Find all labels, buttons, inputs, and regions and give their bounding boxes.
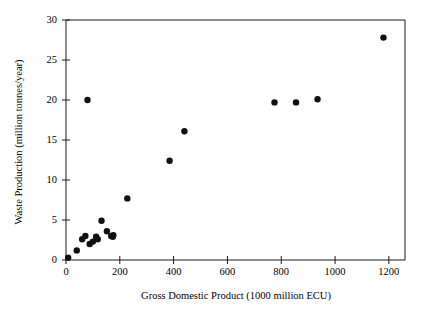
y-axis-title: Waste Production (million tonnes/year) <box>13 59 25 225</box>
plot-frame <box>66 20 405 260</box>
data-point <box>166 158 172 164</box>
data-point <box>82 233 88 239</box>
y-tick-label: 5 <box>52 214 57 225</box>
data-point <box>98 218 104 224</box>
data-point <box>95 236 101 242</box>
y-tick-label: 25 <box>47 54 58 65</box>
data-point-series <box>65 34 387 260</box>
data-point <box>380 34 386 40</box>
x-tick-label: 800 <box>273 266 289 277</box>
y-tick-label: 20 <box>47 94 58 105</box>
y-axis-ticklabels: 051015202530 <box>47 14 58 265</box>
data-point <box>271 99 277 105</box>
x-tick-label: 400 <box>166 266 182 277</box>
data-point <box>181 128 187 134</box>
data-point <box>104 228 110 234</box>
x-tick-label: 600 <box>220 266 236 277</box>
x-axis-title: Gross Domestic Product (1000 million ECU… <box>141 290 331 302</box>
x-tick-label: 1000 <box>325 266 346 277</box>
x-axis-ticklabels: 020040060080010001200 <box>63 266 399 277</box>
y-tick-label: 30 <box>47 14 58 25</box>
x-tick-label: 1200 <box>378 266 399 277</box>
y-tick-label: 10 <box>47 174 58 185</box>
data-point <box>74 247 80 253</box>
x-tick-label: 0 <box>63 266 68 277</box>
data-point <box>65 254 71 260</box>
data-point <box>84 97 90 103</box>
y-tick-label: 15 <box>47 134 58 145</box>
scatter-chart-figure: 051015202530 020040060080010001200 Gross… <box>0 0 426 315</box>
data-point <box>293 99 299 105</box>
data-point <box>124 195 130 201</box>
data-point <box>314 96 320 102</box>
data-point <box>110 232 116 238</box>
scatter-plot-svg: 051015202530 020040060080010001200 Gross… <box>0 0 426 315</box>
y-tick-label: 0 <box>52 254 57 265</box>
x-tick-label: 200 <box>112 266 128 277</box>
